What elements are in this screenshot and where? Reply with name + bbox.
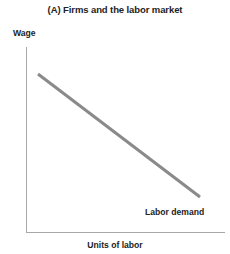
x-axis-label: Units of labor <box>0 240 230 251</box>
labor-demand-label: Labor demand <box>145 207 204 218</box>
labor-market-figure: (A) Firms and the labor market Wage Labo… <box>0 0 230 254</box>
labor-demand-line <box>38 74 200 197</box>
